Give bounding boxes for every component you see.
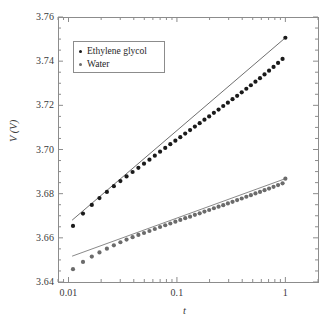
legend: Ethylene glycol Water (73, 41, 165, 73)
y-tick-label: 3.68 (24, 189, 54, 199)
data-point (262, 72, 266, 76)
data-point (258, 76, 262, 80)
data-point (253, 191, 257, 195)
data-point (112, 243, 116, 247)
data-point (168, 221, 172, 225)
data-point (230, 200, 234, 204)
y-axis-label-symbol: V (V) (8, 120, 19, 142)
y-tick-label: 3.72 (24, 100, 54, 110)
data-point (283, 36, 287, 40)
data-point (198, 121, 202, 125)
data-point (153, 227, 157, 231)
legend-item-water: Water (79, 58, 109, 70)
data-point (226, 201, 230, 205)
data-point (188, 128, 192, 132)
data-point (221, 104, 225, 108)
data-point (221, 203, 225, 207)
data-point (71, 267, 75, 271)
y-tick-label: 3.70 (24, 145, 54, 155)
data-point (130, 170, 134, 174)
data-point (283, 177, 287, 181)
chart-figure: 3.643.663.683.703.723.743.760.010.11 V (… (0, 0, 335, 327)
data-point (118, 179, 122, 183)
data-point (136, 166, 140, 170)
data-point (276, 61, 280, 65)
y-tick-label: 3.64 (24, 277, 54, 287)
data-point (216, 107, 220, 111)
data-point (207, 208, 211, 212)
data-point (178, 135, 182, 139)
x-tick-label: 1 (265, 288, 305, 298)
data-point (130, 235, 134, 239)
data-point (105, 190, 109, 194)
data-point (183, 216, 187, 220)
data-point (193, 124, 197, 128)
data-point (81, 211, 85, 215)
data-point (153, 154, 157, 158)
data-point (178, 218, 182, 222)
data-point (193, 213, 197, 217)
data-point (158, 150, 162, 154)
data-point (168, 142, 172, 146)
data-point (112, 184, 116, 188)
data-point (90, 203, 94, 207)
data-point (173, 220, 177, 224)
data-point (90, 255, 94, 259)
data-point (244, 87, 248, 91)
legend-item-label: Ethylene glycol (87, 46, 147, 56)
x-tick-label: 0.1 (157, 288, 197, 298)
data-point (163, 223, 167, 227)
data-point (81, 260, 85, 264)
data-point (97, 250, 101, 254)
data-point (258, 190, 262, 194)
series-points (71, 177, 288, 272)
data-point (262, 188, 266, 192)
data-point (235, 198, 239, 202)
data-point (271, 185, 275, 189)
data-point (244, 195, 248, 199)
legend-item-label: Water (87, 59, 109, 69)
x-tick-label: 0.01 (49, 288, 89, 298)
data-point (271, 65, 275, 69)
data-point (267, 69, 271, 73)
data-point (207, 114, 211, 118)
data-point (163, 146, 167, 150)
data-point (253, 80, 257, 84)
data-point (216, 205, 220, 209)
data-point (158, 225, 162, 229)
x-axis-label: t (183, 305, 186, 316)
data-point (183, 132, 187, 136)
data-point (136, 233, 140, 237)
data-point (249, 193, 253, 197)
legend-marker-icon (79, 63, 82, 66)
data-point (147, 158, 151, 162)
legend-item-ethylene-glycol: Ethylene glycol (79, 45, 147, 57)
data-point (235, 94, 239, 98)
data-point (142, 231, 146, 235)
data-point (240, 196, 244, 200)
legend-marker-icon (79, 50, 82, 53)
data-point (230, 97, 234, 101)
data-point (147, 229, 151, 233)
x-axis-label-symbol: t (183, 305, 186, 316)
data-point (198, 211, 202, 215)
data-point (124, 238, 128, 242)
data-point (280, 57, 284, 61)
data-point (280, 181, 284, 185)
data-point (240, 90, 244, 94)
y-axis-label: V (V) (8, 120, 19, 142)
data-point (142, 162, 146, 166)
data-point (276, 183, 280, 187)
data-point (226, 101, 230, 105)
data-point (71, 224, 75, 228)
data-point (212, 206, 216, 210)
data-point (188, 215, 192, 219)
data-point (97, 196, 101, 200)
data-point (105, 247, 109, 251)
data-point (118, 240, 122, 244)
series-fit-line (72, 179, 285, 257)
y-tick-label: 3.66 (24, 233, 54, 243)
data-point (202, 118, 206, 122)
data-point (267, 186, 271, 190)
y-tick-label: 3.76 (24, 12, 54, 22)
